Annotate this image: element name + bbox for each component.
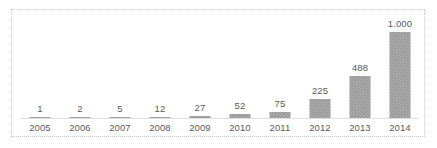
bar-group: 12 [140,10,180,118]
bar-column: 12 [140,10,180,118]
category-tick-label: 2009 [180,122,220,133]
bar-value-label: 488 [340,62,380,73]
bar [350,76,371,118]
category-tick-label: 2010 [220,122,260,133]
bar-group: 52 [220,10,260,118]
bar [70,117,91,119]
bar-group: 1 [20,10,60,118]
bar-column: 75 [260,10,300,118]
bar-column: 2 [60,10,100,118]
category-tick-label: 2012 [300,122,340,133]
bar [150,117,171,119]
bar-value-label: 27 [180,102,220,113]
bar-column: 1 [20,10,60,118]
bar-chart-figure: 125122752752254881.000 20052006200720082… [0,0,437,148]
bar-column: 1.000 [380,10,420,118]
bar-value-label: 5 [100,103,140,114]
bar-column: 52 [220,10,260,118]
bar [110,117,131,119]
bar-column: 225 [300,10,340,118]
category-tick-label: 2005 [20,122,60,133]
bar-group: 27 [180,10,220,118]
bar-group: 5 [100,10,140,118]
bar-value-label: 12 [140,103,180,114]
category-tick-label: 2013 [340,122,380,133]
bar-column: 27 [180,10,220,118]
bar [230,114,251,118]
bar-group: 1.000 [380,10,420,118]
bar-column: 5 [100,10,140,118]
category-tick-label: 2006 [60,122,100,133]
bar-value-label: 1 [20,103,60,114]
bar [310,99,331,118]
bar-column: 488 [340,10,380,118]
bar-value-label: 52 [220,100,260,111]
category-tick-label: 2014 [380,122,420,133]
bar [190,116,211,118]
bar [390,32,411,118]
category-tick-label: 2008 [140,122,180,133]
bar-group: 225 [300,10,340,118]
category-tick-label: 2011 [260,122,300,133]
bar-group: 488 [340,10,380,118]
bar-value-label: 75 [260,98,300,109]
category-axis-line [20,118,418,119]
bar-group: 2 [60,10,100,118]
bar-value-label: 2 [60,103,100,114]
bar-group: 75 [260,10,300,118]
bar-value-label: 225 [300,85,340,96]
bar [270,112,291,118]
plot-area: 125122752752254881.000 20052006200720082… [12,10,424,136]
bar [30,117,51,119]
bar-value-label: 1.000 [380,18,420,29]
category-tick-label: 2007 [100,122,140,133]
